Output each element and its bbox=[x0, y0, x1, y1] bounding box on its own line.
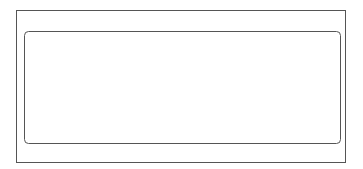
display-panel bbox=[25, 32, 341, 144]
seven-segment-diagram bbox=[0, 0, 363, 169]
outer-frame bbox=[17, 11, 346, 163]
